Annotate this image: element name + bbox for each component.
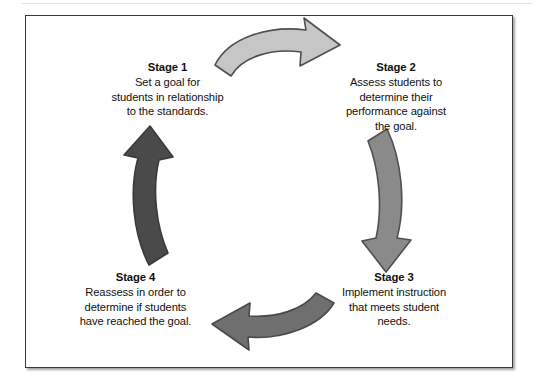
stage-3-body: Implement instruction that meets student…	[320, 285, 468, 329]
arrow-left	[124, 126, 173, 265]
stage-4-body: Reassess in order to determine if studen…	[48, 285, 223, 329]
stage-2-title: Stage 2	[322, 60, 470, 75]
arrow-bottom	[212, 293, 334, 350]
stage-1-title: Stage 1	[85, 60, 250, 75]
stage-4-title: Stage 4	[48, 270, 223, 285]
stage-4-block: Stage 4 Reassess in order to determine i…	[48, 270, 223, 329]
stage-3-block: Stage 3 Implement instruction that meets…	[320, 270, 468, 329]
stage-1-body: Set a goal for students in relationship …	[85, 75, 250, 119]
stage-2-block: Stage 2 Assess students to determine the…	[322, 60, 470, 133]
arrow-right	[362, 129, 411, 272]
stage-2-body: Assess students to determine their perfo…	[322, 75, 470, 133]
stage-3-title: Stage 3	[320, 270, 468, 285]
stage-1-block: Stage 1 Set a goal for students in relat…	[85, 60, 250, 119]
